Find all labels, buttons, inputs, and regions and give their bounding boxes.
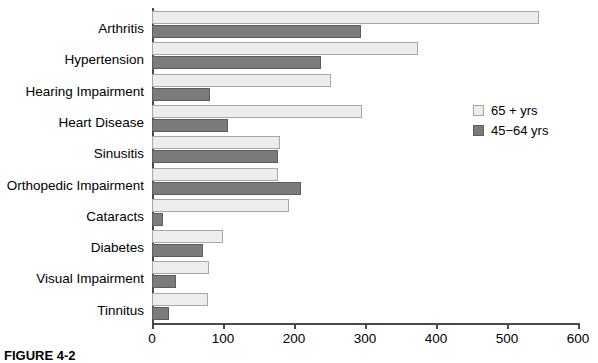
bar <box>152 261 209 274</box>
category-label: Heart Disease <box>0 115 144 130</box>
x-tick-label: 0 <box>148 331 156 346</box>
chart-legend: 65 + yrs45−64 yrs <box>473 103 548 143</box>
legend-label: 45−64 yrs <box>491 123 548 138</box>
bar <box>152 119 228 132</box>
category-label: Visual Impairment <box>0 271 144 286</box>
legend-item: 45−64 yrs <box>473 123 548 138</box>
bar <box>152 25 361 38</box>
bar <box>152 275 176 288</box>
category-label: Sinusitis <box>0 146 144 161</box>
bar <box>152 168 278 181</box>
legend-swatch-light <box>473 105 484 116</box>
category-label: Cataracts <box>0 209 144 224</box>
bar <box>152 307 169 320</box>
category-label: Orthopedic Impairment <box>0 178 144 193</box>
bar <box>152 150 278 163</box>
bar <box>152 11 539 24</box>
bar <box>152 213 163 226</box>
bar <box>152 74 331 87</box>
x-tick-label: 100 <box>212 331 235 346</box>
bar <box>152 293 208 306</box>
x-tick <box>578 323 580 329</box>
bar <box>152 136 280 149</box>
x-tick-label: 300 <box>354 331 377 346</box>
x-tick-label: 400 <box>425 331 448 346</box>
bar <box>152 182 301 195</box>
category-label: Hearing Impairment <box>0 84 144 99</box>
x-tick <box>294 323 296 329</box>
x-tick <box>223 323 225 329</box>
legend-swatch-dark <box>473 125 484 136</box>
x-tick <box>507 323 509 329</box>
bar <box>152 244 203 257</box>
x-tick <box>365 323 367 329</box>
bar <box>152 56 321 69</box>
x-tick-label: 500 <box>496 331 519 346</box>
legend-item: 65 + yrs <box>473 103 548 118</box>
bar <box>152 230 223 243</box>
x-tick-label: 200 <box>283 331 306 346</box>
figure-caption: FIGURE 4-2 <box>4 348 76 363</box>
bar <box>152 105 362 118</box>
bar <box>152 88 210 101</box>
category-label: Arthritis <box>0 21 144 36</box>
legend-label: 65 + yrs <box>491 103 538 118</box>
x-tick <box>152 323 154 329</box>
category-label: Hypertension <box>0 52 144 67</box>
category-label: Diabetes <box>0 240 144 255</box>
x-tick-label: 600 <box>567 331 590 346</box>
x-tick <box>436 323 438 329</box>
bar <box>152 199 289 212</box>
bar <box>152 42 418 55</box>
category-label: Tinnitus <box>0 303 144 318</box>
